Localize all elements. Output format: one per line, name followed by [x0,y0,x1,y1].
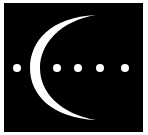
crescent-moon-logo [0,0,148,135]
dot-icon [53,64,61,72]
dot-icon [96,64,104,72]
dot-icon [74,64,82,72]
dot-icon [13,64,21,72]
dot-icon [121,64,129,72]
